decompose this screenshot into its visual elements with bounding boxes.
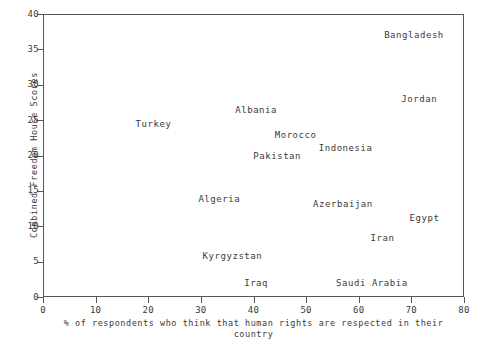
x-tick-label: 10 — [76, 306, 116, 315]
x-tick-label: 80 — [444, 306, 483, 315]
data-point-label: Albania — [235, 105, 277, 114]
data-point-label: Kyrgyzstan — [203, 251, 263, 260]
x-tick-label: 0 — [23, 306, 63, 315]
x-tick-mark — [254, 297, 255, 303]
y-tick-label: 40 — [0, 10, 39, 19]
data-point-label: Pakistan — [253, 151, 301, 160]
x-tick-label: 20 — [128, 306, 168, 315]
x-tick-mark — [43, 297, 44, 303]
data-point-label: Turkey — [136, 119, 172, 128]
x-tick-mark — [464, 297, 465, 303]
x-tick-mark — [306, 297, 307, 303]
x-tick-mark — [201, 297, 202, 303]
data-point-label: Bangladesh — [384, 31, 444, 40]
data-point-label: Iran — [370, 234, 394, 243]
x-tick-label: 40 — [234, 306, 274, 315]
data-point-label: Egypt — [410, 213, 440, 222]
x-tick-label: 60 — [339, 306, 379, 315]
data-point-label: Algeria — [198, 195, 240, 204]
data-point-label: Jordan — [401, 94, 437, 103]
x-axis-title: % of respondents who think that human ri… — [43, 318, 464, 340]
data-point-label: Iraq — [244, 278, 268, 287]
y-tick-label: 0 — [0, 293, 39, 302]
data-point-label: Azerbaijan — [313, 199, 373, 208]
x-tick-mark — [96, 297, 97, 303]
x-tick-mark — [148, 297, 149, 303]
x-tick-mark — [359, 297, 360, 303]
y-axis-title: Combined Freedom House Scores — [29, 35, 39, 275]
x-tick-label: 70 — [391, 306, 431, 315]
x-tick-label: 30 — [181, 306, 221, 315]
x-tick-label: 50 — [286, 306, 326, 315]
scatter-plot-figure: 0510152025303540 01020304050607080 Bangl… — [0, 0, 483, 347]
x-tick-mark — [411, 297, 412, 303]
data-point-label: Morocco — [275, 130, 317, 139]
data-point-label: Indonesia — [319, 144, 373, 153]
data-point-label: Saudi Arabia — [336, 278, 408, 287]
